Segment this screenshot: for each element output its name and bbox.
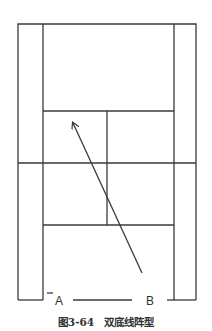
player-a-label: A	[55, 294, 63, 308]
figure-caption: 图3-64 双底线阵型	[0, 314, 212, 329]
player-b-label: B	[146, 294, 154, 308]
court-diagram: A B	[0, 0, 212, 331]
